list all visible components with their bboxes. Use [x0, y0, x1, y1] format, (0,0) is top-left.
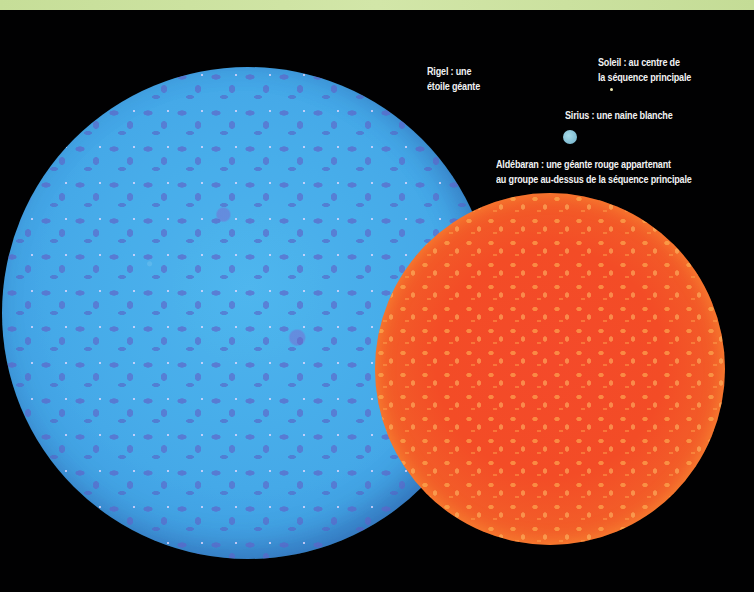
aldebaran-label-line-1: Aldébaran : une géante rouge appartenant	[496, 157, 692, 172]
top-header-band	[0, 0, 754, 10]
soleil-label-line-1: Soleil : au centre de	[598, 55, 691, 70]
sirius-label: Sirius : une naine blanche	[565, 108, 673, 123]
aldebaran-label: Aldébaran : une géante rouge appartenant…	[496, 157, 692, 187]
sun-star	[610, 88, 613, 91]
sirius-star	[563, 130, 577, 144]
aldebaran-surface-texture	[375, 193, 725, 545]
rigel-label-line-1: Rigel : une	[427, 64, 480, 79]
aldebaran-star	[375, 193, 725, 545]
sirius-label-line-1: Sirius : une naine blanche	[565, 108, 673, 123]
aldebaran-label-line-2: au groupe au-dessus de la séquence princ…	[496, 172, 692, 187]
soleil-label: Soleil : au centre de la séquence princi…	[598, 55, 691, 85]
rigel-label-line-2: étoile géante	[427, 79, 480, 94]
rigel-label: Rigel : une étoile géante	[427, 64, 480, 94]
soleil-label-line-2: la séquence principale	[598, 70, 691, 85]
